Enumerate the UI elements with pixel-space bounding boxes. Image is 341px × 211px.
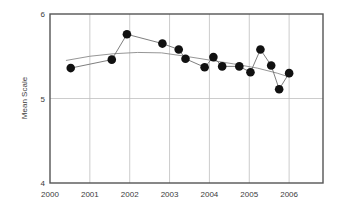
data-point-marker xyxy=(200,63,209,72)
x-tick-label: 2002 xyxy=(121,190,139,199)
data-point-marker xyxy=(174,45,183,54)
chart-background xyxy=(0,0,341,211)
x-tick-label: 2001 xyxy=(81,190,99,199)
x-tick-label: 2003 xyxy=(161,190,179,199)
y-tick-label: 5 xyxy=(41,95,46,104)
mean-scale-line-chart: 456 2000200120022003200420052006 Mean Sc… xyxy=(0,0,341,211)
data-point-marker xyxy=(246,68,255,77)
y-axis-title: Mean Scale xyxy=(20,76,29,119)
data-point-marker xyxy=(123,30,132,39)
x-tick-label: 2005 xyxy=(240,190,258,199)
data-point-marker xyxy=(218,62,227,71)
data-point-marker xyxy=(285,69,294,78)
x-tick-label: 2006 xyxy=(280,190,298,199)
data-point-marker xyxy=(267,61,276,70)
y-tick-label: 4 xyxy=(41,179,46,188)
data-point-marker xyxy=(275,85,284,94)
data-point-marker xyxy=(66,64,75,73)
y-tick-label: 6 xyxy=(41,10,46,19)
data-point-marker xyxy=(181,54,190,63)
data-point-marker xyxy=(107,55,116,64)
chart-container: 456 2000200120022003200420052006 Mean Sc… xyxy=(0,0,341,211)
data-point-marker xyxy=(209,53,218,62)
data-point-marker xyxy=(158,39,167,48)
data-point-marker xyxy=(235,62,244,71)
x-tick-label: 2004 xyxy=(201,190,219,199)
x-tick-label: 2000 xyxy=(41,190,59,199)
data-point-marker xyxy=(256,45,265,54)
